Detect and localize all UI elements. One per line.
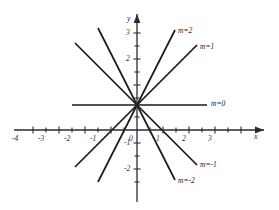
slope-label-m-neg1: m=-1 bbox=[200, 161, 217, 169]
x-tick-label-neg1: -1 bbox=[90, 135, 96, 143]
x-tick-label-1: 1 bbox=[156, 135, 160, 143]
slope-label-m-neg2: m=-2 bbox=[178, 177, 195, 185]
y-tick-label-2: 2 bbox=[126, 55, 130, 63]
coordinate-plane-figure: -4 -3 -2 -1 0 1 2 3 3 2 -1 -2 x y m=2 m=… bbox=[0, 0, 279, 210]
plot-canvas bbox=[0, 0, 279, 210]
y-axis-arrowhead bbox=[134, 14, 141, 23]
line-family bbox=[72, 28, 207, 182]
y-axis-label: y bbox=[127, 15, 131, 23]
y-tick-label-neg1: -1 bbox=[124, 139, 130, 147]
line-m-1 bbox=[75, 45, 197, 167]
x-tick-label-neg3: -3 bbox=[38, 135, 44, 143]
y-tick-label-neg2: -2 bbox=[124, 165, 130, 173]
x-tick-label-2: 2 bbox=[182, 135, 186, 143]
y-tick-label-3: 3 bbox=[126, 29, 130, 37]
slope-label-m2: m=2 bbox=[178, 27, 192, 35]
x-axis-label: x bbox=[254, 133, 258, 141]
slope-label-m0: m=0 bbox=[211, 100, 225, 108]
x-tick-label-3: 3 bbox=[208, 135, 212, 143]
x-tick-label-neg4: -4 bbox=[12, 135, 18, 143]
x-tick-label-neg2: -2 bbox=[64, 135, 70, 143]
slope-label-m1: m=1 bbox=[200, 43, 214, 51]
